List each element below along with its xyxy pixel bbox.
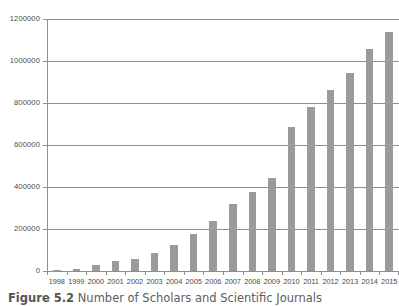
x-tick-label-2000: 2000 — [86, 277, 106, 286]
x-tick-mark — [164, 271, 165, 275]
x-tick-mark — [243, 271, 244, 275]
plot-area — [47, 19, 399, 271]
bar-2005 — [190, 234, 198, 271]
bar-chart: 120000010000008000006000004000002000000 … — [0, 0, 399, 292]
bar-2003 — [151, 253, 159, 271]
bar-2010 — [288, 127, 296, 271]
x-tick-mark — [379, 271, 380, 275]
gridline — [47, 61, 399, 62]
bar-2012 — [327, 90, 335, 271]
x-tick-label-2002: 2002 — [125, 277, 145, 286]
x-tick-mark — [203, 271, 204, 275]
x-tick-mark — [321, 271, 322, 275]
x-tick-label-2001: 2001 — [106, 277, 126, 286]
y-axis-line — [47, 19, 48, 275]
x-tick-mark — [106, 271, 107, 275]
x-tick-label-2013: 2013 — [340, 277, 360, 286]
bar-2011 — [307, 107, 315, 271]
y-tick-label: 0 — [0, 267, 40, 275]
caption-number: Figure 5.2 — [8, 291, 74, 305]
caption-text: Number of Scholars and Scientific Journa… — [78, 291, 322, 305]
x-tick-label-2012: 2012 — [321, 277, 341, 286]
x-tick-mark — [360, 271, 361, 275]
x-tick-label-2008: 2008 — [243, 277, 263, 286]
gridline — [47, 19, 399, 20]
x-tick-mark — [86, 271, 87, 275]
x-tick-label-2007: 2007 — [223, 277, 243, 286]
x-tick-label-1998: 1998 — [47, 277, 67, 286]
bar-2009 — [268, 178, 276, 271]
x-tick-label-2006: 2006 — [203, 277, 223, 286]
bar-2004 — [170, 245, 178, 271]
y-tick-label: 1200000 — [0, 15, 40, 23]
y-tick-label: 800000 — [0, 99, 40, 107]
x-tick-label-1999: 1999 — [67, 277, 87, 286]
x-tick-mark — [282, 271, 283, 275]
x-tick-label-2009: 2009 — [262, 277, 282, 286]
x-tick-mark — [145, 271, 146, 275]
y-tick-label: 200000 — [0, 225, 40, 233]
bar-2002 — [131, 259, 139, 271]
x-tick-label-2003: 2003 — [145, 277, 165, 286]
bar-2008 — [249, 192, 257, 271]
x-tick-mark — [47, 271, 48, 275]
x-tick-label-2005: 2005 — [184, 277, 204, 286]
x-tick-label-2014: 2014 — [360, 277, 380, 286]
bar-2013 — [346, 73, 354, 271]
figure-caption: Figure 5.2 Number of Scholars and Scient… — [8, 291, 399, 306]
x-tick-mark — [125, 271, 126, 275]
x-tick-mark — [67, 271, 68, 275]
x-tick-mark — [340, 271, 341, 275]
y-tick-label: 400000 — [0, 183, 40, 191]
bar-2015 — [385, 32, 393, 271]
x-tick-label-2004: 2004 — [164, 277, 184, 286]
figure-container: 120000010000008000006000004000002000000 … — [0, 0, 399, 306]
bar-2007 — [229, 204, 237, 271]
bar-2014 — [366, 49, 374, 271]
x-tick-label-2011: 2011 — [301, 277, 321, 286]
x-tick-mark — [223, 271, 224, 275]
bar-2006 — [209, 221, 217, 271]
y-tick-label: 600000 — [0, 141, 40, 149]
x-tick-mark — [301, 271, 302, 275]
x-tick-label-2010: 2010 — [282, 277, 302, 286]
bar-2001 — [112, 261, 120, 271]
x-tick-mark — [184, 271, 185, 275]
x-tick-label-2015: 2015 — [379, 277, 399, 286]
y-tick-label: 1000000 — [0, 57, 40, 65]
x-tick-mark — [262, 271, 263, 275]
